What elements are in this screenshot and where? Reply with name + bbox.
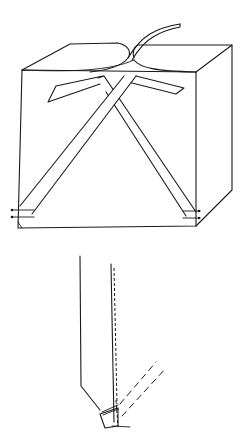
box-top-right-flap [133, 45, 232, 72]
strap-tail-left [48, 76, 103, 102]
handle-strap-edge [132, 24, 180, 60]
strap-right-diagonal-edge [106, 92, 186, 216]
strap-left-diagonal-edge-a [20, 76, 124, 206]
detail-dashed-continuation-upper [120, 362, 156, 404]
detail-strap-stitch-line [114, 268, 117, 404]
box-top-left-flap [22, 43, 130, 72]
strap-left-diagonal-edge-b [32, 76, 136, 214]
strap-detail-panel [80, 256, 166, 428]
box-panel [11, 24, 232, 228]
box-right-face [196, 45, 232, 226]
illustration [0, 0, 248, 444]
box-top-front-edge [22, 60, 134, 71]
strap-tail-right [128, 76, 184, 94]
detail-folded-tab-hatch [102, 405, 118, 415]
detail-folded-tab [100, 408, 118, 428]
detail-dashed-continuation-lower [122, 368, 166, 416]
strap-left-diagonal [20, 76, 136, 212]
stitch-marks-left [11, 209, 34, 228]
detail-strap-left-edge [80, 256, 100, 410]
detail-strap-right-edge [111, 264, 114, 422]
